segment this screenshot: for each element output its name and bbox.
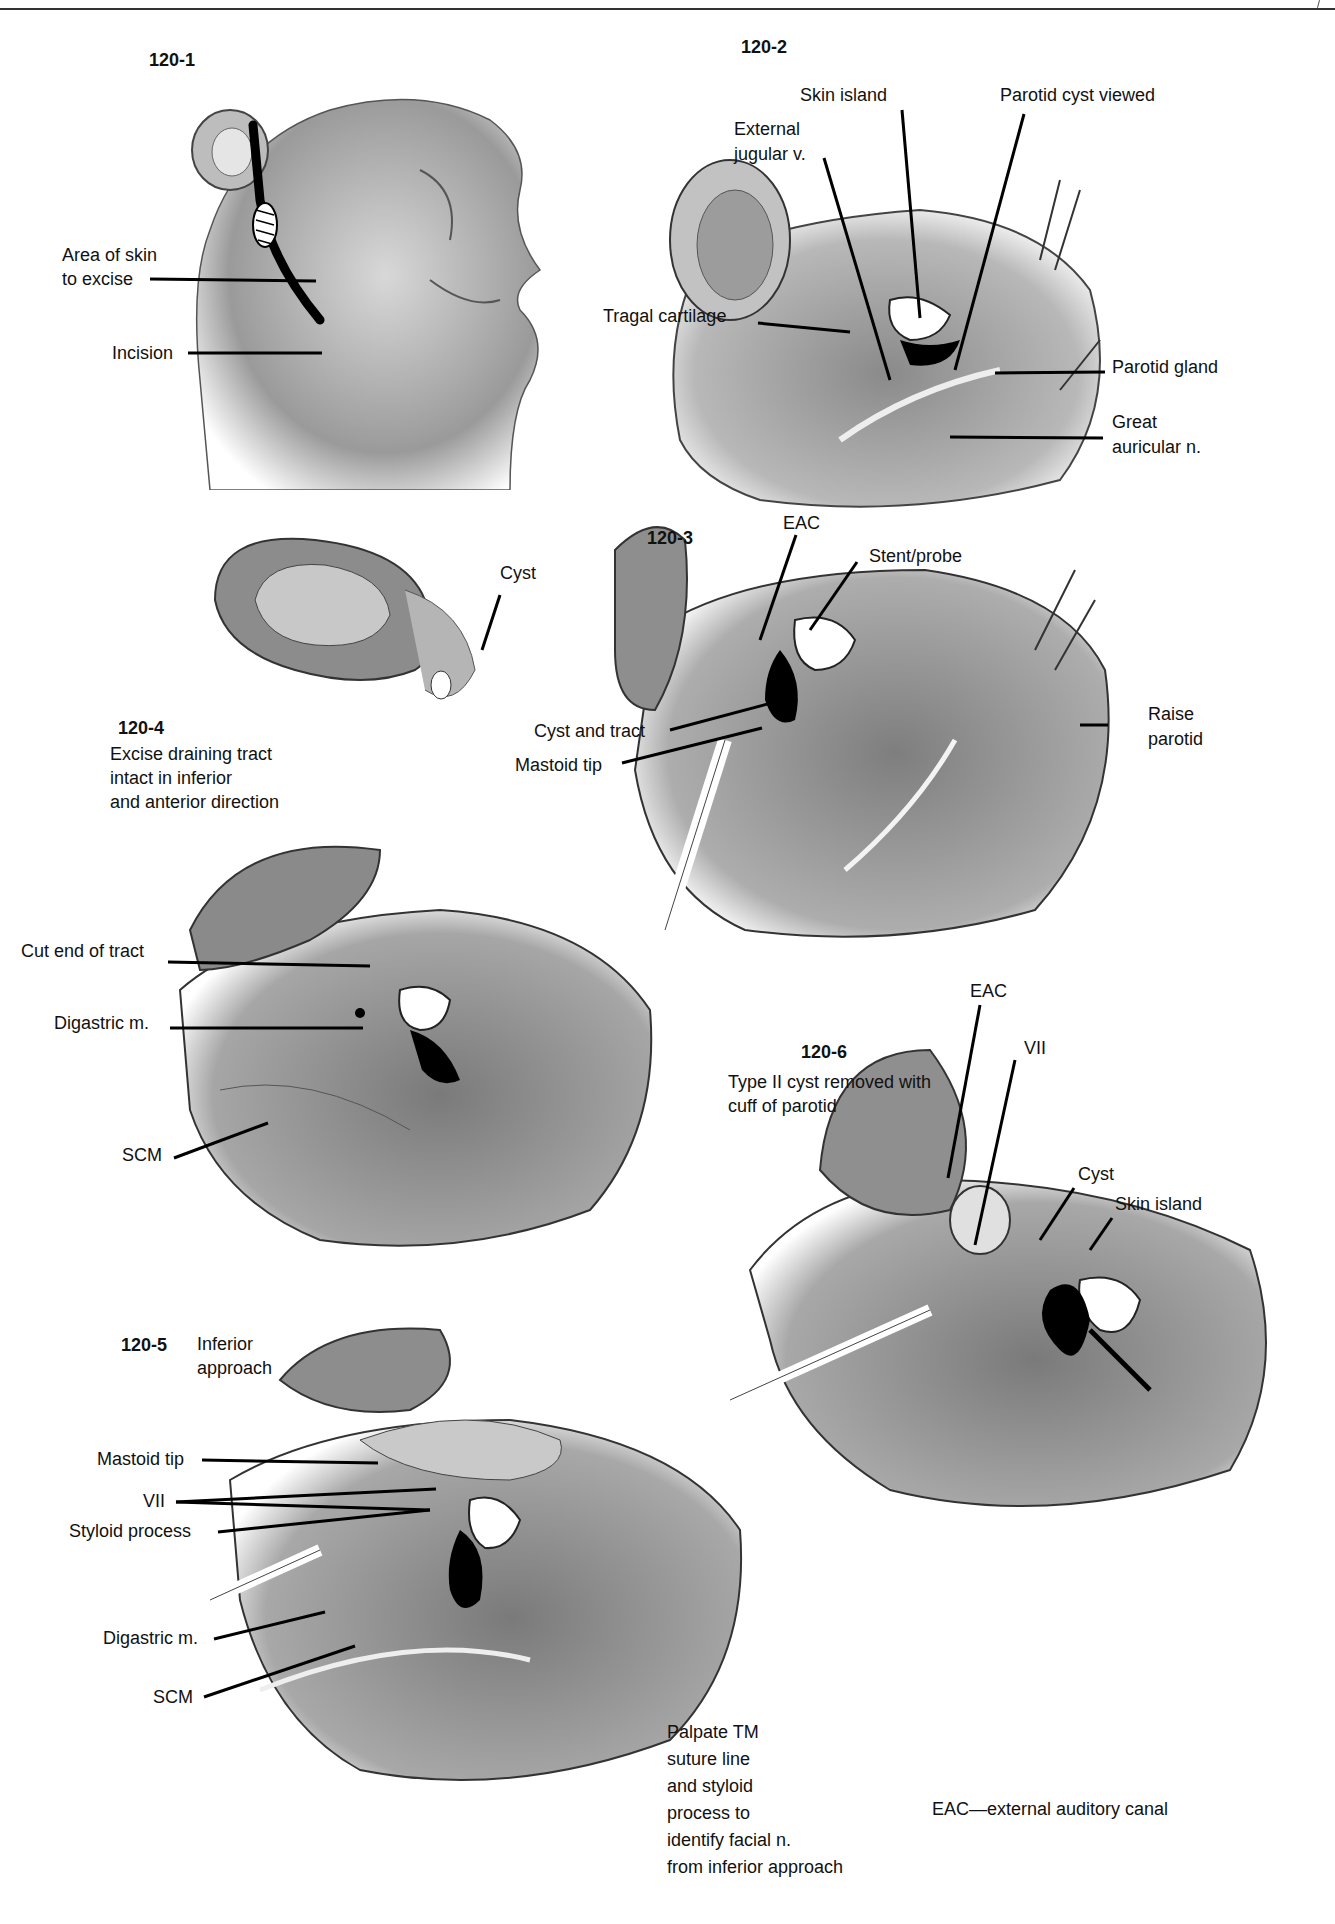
figure-number-120-6: 120-6 <box>801 1042 847 1063</box>
caption-120-5-line-1: Inferior <box>197 1332 272 1356</box>
label-auricular-n: auricular n. <box>1112 436 1201 458</box>
illustration-120-1-face-profile <box>170 80 580 490</box>
label-scm: SCM <box>122 1144 162 1166</box>
illustration-120-2-parotid-exposure <box>660 140 1120 520</box>
label-parotid: parotid <box>1148 728 1203 750</box>
label-digastric-m-120-5: Digastric m. <box>103 1627 198 1649</box>
figure-number-120-5: 120-5 <box>121 1335 167 1356</box>
label-vii-120-5: VII <box>143 1490 165 1512</box>
label-stent-probe: Stent/probe <box>869 545 962 567</box>
figure-number-120-4: 120-4 <box>118 718 164 739</box>
label-digastric-m: Digastric m. <box>54 1012 149 1034</box>
note-line-4: process to <box>667 1800 843 1827</box>
note-line-3: and styloid <box>667 1773 843 1800</box>
header-rule <box>0 8 1335 10</box>
footnote-eac-definition: EAC—external auditory canal <box>932 1798 1168 1820</box>
label-tragal-cartilage: Tragal cartilage <box>603 305 726 327</box>
figure-number-120-3: 120-3 <box>647 528 693 549</box>
label-skin-island: Skin island <box>800 84 887 106</box>
label-cyst: Cyst <box>500 562 536 584</box>
note-line-1: Palpate TM <box>667 1719 843 1746</box>
label-eac: EAC <box>783 512 820 534</box>
note-palpate-tm: Palpate TM suture line and styloid proce… <box>667 1719 843 1881</box>
caption-120-4: Excise draining tract intact in inferior… <box>110 742 279 814</box>
label-great: Great <box>1112 411 1157 433</box>
illustration-120-4-tract-excision <box>160 830 680 1260</box>
label-jugular-v: jugular v. <box>734 143 806 165</box>
label-mastoid-tip: Mastoid tip <box>515 754 602 776</box>
note-line-5: identify facial n. <box>667 1827 843 1854</box>
note-line-6: from inferior approach <box>667 1854 843 1881</box>
note-line-2: suture line <box>667 1746 843 1773</box>
caption-120-4-line-2: intact in inferior <box>110 766 279 790</box>
caption-120-6-line-1: Type II cyst removed with <box>728 1070 931 1094</box>
caption-120-5: Inferior approach <box>197 1332 272 1380</box>
caption-120-4-line-3: and anterior direction <box>110 790 279 814</box>
label-cyst-and-tract: Cyst and tract <box>534 720 645 742</box>
label-styloid-process: Styloid process <box>69 1520 191 1542</box>
label-scm-120-5: SCM <box>153 1686 193 1708</box>
label-incision: Incision <box>112 342 173 364</box>
caption-120-6: Type II cyst removed with cuff of paroti… <box>728 1070 931 1118</box>
label-raise: Raise <box>1148 703 1194 725</box>
illustration-ear-cyst <box>205 520 495 720</box>
label-vii-120-6: VII <box>1024 1037 1046 1059</box>
caption-120-5-line-2: approach <box>197 1356 272 1380</box>
label-eac-120-6: EAC <box>970 980 1007 1002</box>
label-area-of-skin: Area of skin <box>62 244 157 266</box>
figure-number-120-2: 120-2 <box>741 37 787 58</box>
label-parotid-cyst-viewed: Parotid cyst viewed <box>1000 84 1155 106</box>
label-cut-end-of-tract: Cut end of tract <box>21 940 144 962</box>
label-cyst-120-6: Cyst <box>1078 1163 1114 1185</box>
label-external: External <box>734 118 800 140</box>
header-tick <box>1317 0 1320 8</box>
label-skin-island-120-6: Skin island <box>1115 1193 1202 1215</box>
caption-120-6-line-2: cuff of parotid <box>728 1094 931 1118</box>
label-parotid-gland: Parotid gland <box>1112 356 1218 378</box>
caption-120-4-line-1: Excise draining tract <box>110 742 279 766</box>
figure-number-120-1: 120-1 <box>149 50 195 71</box>
label-to-excise: to excise <box>62 268 133 290</box>
label-mastoid-tip-120-5: Mastoid tip <box>97 1448 184 1470</box>
